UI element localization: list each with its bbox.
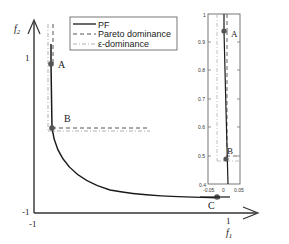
inset-plot: A B 1 0.9 0.8 0.7 0.6 0.5 0.4 -0.05 0 0.… [198, 12, 244, 193]
inset-label-a: A [231, 29, 238, 39]
x-tick-left: -1 [29, 219, 37, 229]
point-b [49, 125, 55, 131]
pareto-front-curve [51, 44, 220, 198]
inset-ytick: 1 [203, 12, 206, 18]
legend-item-pareto: Pareto dominance [98, 29, 171, 39]
inset-label-b: B [227, 146, 233, 156]
label-c: C [208, 200, 215, 211]
label-b: B [64, 113, 71, 124]
inset-ytick: 0.8 [198, 67, 205, 73]
chart-canvas: A B C f2 f1 1 -1 -1 1 PF Pareto dominanc… [0, 0, 289, 244]
x-axis-label: f1 [226, 227, 232, 240]
inset-xtick: 0 [222, 187, 225, 193]
inset-xtick: 0.05 [234, 187, 244, 193]
inset-ytick: 0.9 [198, 39, 205, 45]
inset-ytick: 0.7 [198, 96, 205, 102]
point-a [48, 61, 54, 67]
legend-item-epsilon: ε-dominance [98, 39, 149, 49]
inset-ytick: 0.5 [198, 153, 205, 159]
label-a: A [58, 59, 66, 70]
legend: PF Pareto dominance ε-dominance [70, 17, 177, 50]
y-tick-bottom: -1 [22, 207, 30, 217]
y-axis-label: f2 [14, 23, 21, 36]
y-tick-top: 1 [25, 53, 30, 63]
inset-xtick: -0.05 [203, 187, 215, 193]
x-tick-right: 1 [226, 216, 231, 226]
inset-ytick: 0.6 [198, 124, 205, 130]
